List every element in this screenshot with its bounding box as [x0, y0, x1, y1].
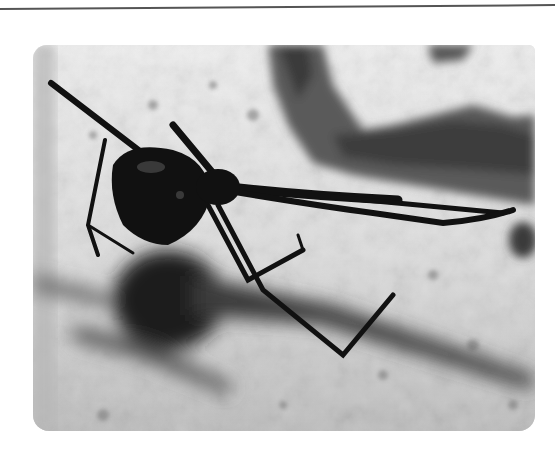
spider-photo-illustration — [33, 45, 535, 431]
top-divider-rule — [0, 4, 555, 10]
spider-photo — [33, 45, 535, 431]
